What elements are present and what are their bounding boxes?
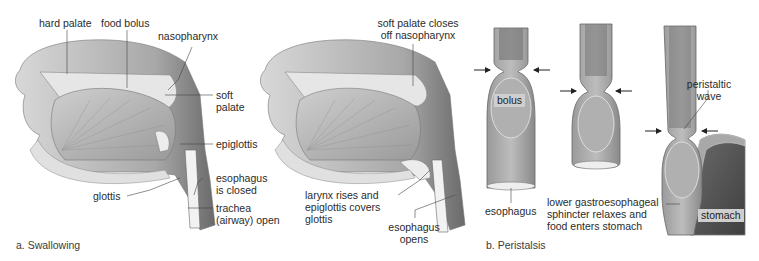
esophagus-tube-3-stomach — [645, 26, 745, 235]
label-bolus: bolus — [494, 94, 525, 107]
caption-swallowing: a. Swallowing — [16, 239, 80, 251]
label-nasopharynx: nasopharynx — [158, 30, 218, 42]
label-larynx-rises-line2: epiglottis covers — [305, 201, 380, 213]
label-trachea-line2: (airway) open — [216, 214, 280, 226]
label-soft-palate-line1: soft — [216, 89, 233, 101]
label-peristaltic-wave-line2: wave — [680, 90, 738, 102]
label-peristaltic-wave-line1: peristaltic — [680, 78, 738, 90]
caption-peristalsis: b. Peristalsis — [486, 239, 546, 251]
esophagus-tube-1 — [474, 28, 550, 203]
label-soft-palate-closes-line1: soft palate closes — [372, 17, 464, 29]
label-stomach: stomach — [698, 209, 744, 222]
label-hard-palate: hard palate — [39, 17, 92, 29]
label-glottis: glottis — [93, 190, 120, 202]
label-food-bolus: food bolus — [101, 17, 149, 29]
label-lower-sphincter-line3: food enters stomach — [547, 220, 642, 232]
label-trachea-line1: trachea — [216, 202, 251, 214]
label-esophagus-opens-line2: opens — [388, 233, 440, 245]
label-larynx-rises-line3: glottis — [305, 213, 332, 225]
label-soft-palate-line2: palate — [216, 101, 245, 113]
digestion-diagram: hard palate food bolus nasopharynx soft … — [0, 0, 759, 261]
esophagus-tube-2 — [560, 24, 632, 169]
label-soft-palate-closes-line2: off nasopharynx — [372, 29, 464, 41]
label-esophagus: esophagus — [485, 205, 536, 217]
label-esophagus-closed-line2: is closed — [216, 184, 257, 196]
label-epiglottis: epiglottis — [216, 138, 257, 150]
label-esophagus-opens-line1: esophagus — [388, 221, 440, 233]
label-esophagus-closed-line1: esophagus — [216, 172, 267, 184]
label-lower-sphincter-line2: sphincter relaxes and — [547, 208, 647, 220]
label-larynx-rises-line1: larynx rises and — [305, 189, 379, 201]
label-lower-sphincter-line1: lower gastroesophageal — [547, 196, 659, 208]
